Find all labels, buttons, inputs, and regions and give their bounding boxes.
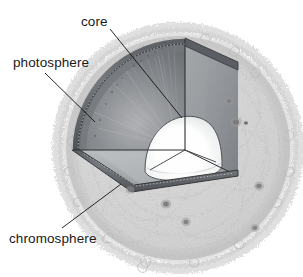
label-core: core [81, 14, 108, 29]
label-photosphere: photosphere [13, 55, 89, 70]
sun-cutaway-diagram: core photosphere chromosphere [0, 0, 303, 277]
label-chromosphere: chromosphere [9, 231, 97, 246]
